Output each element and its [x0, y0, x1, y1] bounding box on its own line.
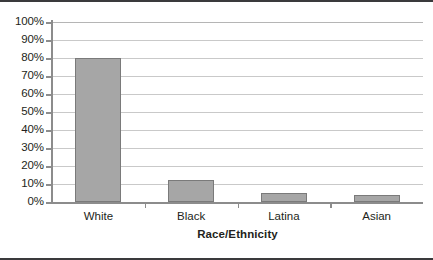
y-axis-tick-label: 60%	[2, 88, 44, 100]
bar-asian	[354, 195, 400, 202]
y-axis-tick-label: 40%	[2, 124, 44, 136]
y-axis-tick	[46, 22, 52, 24]
bar-latina	[261, 193, 307, 202]
y-axis-tick	[46, 184, 52, 186]
y-axis-tick	[46, 112, 52, 114]
x-axis-tick	[330, 203, 332, 208]
y-axis-tick-label: 80%	[2, 52, 44, 64]
y-axis-tick-label: 30%	[2, 142, 44, 154]
gridline	[52, 40, 423, 41]
x-axis-category-label: Latina	[238, 210, 331, 223]
x-axis-category-label: Asian	[330, 210, 423, 223]
bar-white	[75, 58, 121, 202]
y-axis-tick	[46, 58, 52, 60]
bar-chart-figure: 0%10%20%30%40%50%60%70%80%90%100% Race/E…	[0, 0, 433, 260]
y-axis-tick	[46, 40, 52, 42]
gridline	[52, 22, 423, 23]
bar-black	[168, 180, 214, 202]
y-axis-tick	[46, 130, 52, 132]
y-axis-tick-label: 0%	[2, 196, 44, 208]
y-axis-labels: 0%10%20%30%40%50%60%70%80%90%100%	[0, 0, 44, 260]
x-axis-tick	[238, 203, 240, 208]
y-axis-tick	[46, 166, 52, 168]
y-axis-tick	[46, 148, 52, 150]
y-axis-tick-label: 20%	[2, 160, 44, 172]
x-axis-category-label: White	[52, 210, 145, 223]
x-axis-title: Race/Ethnicity	[52, 228, 423, 240]
y-axis-tick-label: 90%	[2, 34, 44, 46]
y-axis-tick	[46, 76, 52, 78]
y-axis-tick-label: 50%	[2, 106, 44, 118]
x-axis-tick	[145, 203, 147, 208]
x-axis-category-label: Black	[145, 210, 238, 223]
y-axis-tick-label: 100%	[2, 16, 44, 28]
plot-area	[52, 22, 423, 202]
y-axis-tick	[46, 202, 52, 204]
y-axis-tick	[46, 94, 52, 96]
y-axis-tick-label: 10%	[2, 178, 44, 190]
y-axis-tick-label: 70%	[2, 70, 44, 82]
